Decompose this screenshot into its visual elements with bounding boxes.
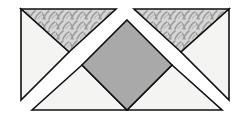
quilt-pieces [21, 9, 229, 110]
quilt-diagram [0, 0, 250, 117]
